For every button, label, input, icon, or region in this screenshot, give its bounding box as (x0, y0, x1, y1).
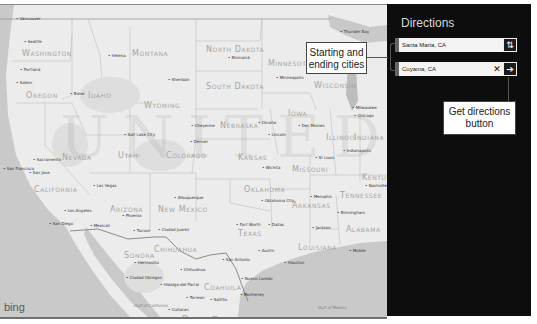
city-label: • Denver (190, 139, 208, 144)
city-label: • Phoenix (122, 213, 142, 218)
state-label: Minnesota (268, 59, 311, 68)
callout-cities: Starting and ending cities (306, 42, 367, 74)
city-label: • San Diego (49, 221, 73, 226)
callout-cities-line1: Starting and (307, 47, 366, 59)
city-label: • Seattle (24, 39, 42, 44)
city-label: • Mobile (349, 248, 366, 253)
city-label: • Sacramento (33, 157, 61, 162)
city-label: • Indianapolis (343, 148, 371, 153)
city-label: • Saltillo (210, 297, 227, 302)
water-label: Gulf of California (134, 303, 168, 308)
callout-get-directions: Get directions button (443, 101, 516, 135)
city-label: • Salem (16, 80, 32, 85)
city-label: • Houston (284, 260, 304, 265)
state-label: South Dakota (206, 82, 264, 91)
city-label: • Nashville (365, 183, 387, 188)
state-label: New Mexico (158, 205, 208, 214)
state-label: Alabama (346, 225, 381, 234)
city-label: • Oklahoma City (261, 198, 294, 203)
city-label: • San Francisco (3, 166, 34, 171)
state-label: Oklahoma (244, 185, 285, 194)
state-label: Montana (132, 49, 168, 58)
state-label: Colorado (166, 151, 206, 160)
callout-line-button (508, 77, 509, 101)
city-label: • Culiacan (168, 307, 189, 312)
city-label: • Ciudad Obregon (126, 275, 162, 280)
city-label: • Minneapolis (276, 75, 303, 80)
city-label: • Des Moines (298, 123, 325, 128)
state-label: Missouri (292, 165, 328, 174)
state-label: Illinois (326, 133, 356, 142)
city-label: • Torreon (186, 295, 204, 300)
city-label: • Memphis (310, 194, 332, 199)
end-marker-icon (395, 62, 399, 76)
state-label: Iowa (288, 109, 307, 118)
state-label: Indiana (354, 133, 384, 142)
city-label: • Hermosillo (134, 260, 159, 265)
panel-title: Directions (401, 16, 454, 30)
city-label: • Albuquerque (174, 195, 203, 200)
state-label: Nebraska (220, 121, 258, 130)
state-label: Wyoming (144, 101, 180, 110)
directions-panel: Directions Santa Maria, CA ⇅ Cuyama, CA … (387, 4, 531, 316)
city-label: • Salt Lake City (124, 132, 155, 137)
city-label: • Dallas (268, 222, 284, 227)
city-label: • Helena (108, 53, 126, 58)
callout-line-cities (366, 57, 388, 58)
state-label: Washington (22, 49, 72, 58)
state-label: Arkansas (292, 201, 331, 210)
state-label: Wisconsin (314, 81, 356, 90)
city-label: • Portland (20, 67, 40, 72)
callout-cities-line2: ending cities (307, 59, 366, 71)
city-label: • St Louis (315, 155, 334, 160)
region-label: Sonora (124, 251, 155, 260)
city-label: • Chihuahua (180, 267, 205, 272)
city-label: • Boise (70, 91, 84, 96)
city-label: • Bismarck (228, 55, 250, 60)
city-label: • Vancouver (16, 16, 41, 21)
city-label: • Austin (258, 248, 274, 253)
clear-icon[interactable]: ✕ (491, 64, 503, 74)
region-label: Chihuahua (154, 245, 197, 254)
state-label: Nevada (62, 153, 92, 162)
city-label: • Omaha (258, 120, 276, 125)
state-label: North Dakota (206, 45, 264, 54)
city-label: • Fort Worth (236, 222, 261, 227)
start-location-field[interactable]: Santa Maria, CA ⇅ (395, 38, 517, 52)
city-label: • Las Vegas (93, 183, 117, 188)
city-label: • Jackson (312, 225, 331, 230)
region-label: Coahuila (204, 283, 241, 292)
state-label: California (34, 185, 78, 194)
state-label: Tennessee (340, 191, 382, 200)
city-label: • Chicago (354, 113, 374, 118)
state-label: Texas (238, 229, 262, 238)
state-label: Utah (118, 151, 138, 160)
city-label: • Mexicali (90, 223, 110, 228)
city-label: • Nuevo Laredo (241, 276, 272, 281)
end-location-value[interactable]: Cuyama, CA (402, 66, 491, 72)
state-label: Kansas (238, 153, 267, 162)
end-location-field[interactable]: Cuyama, CA ✕ ➔ (395, 62, 517, 76)
callout-button-line1: Get directions (444, 106, 515, 118)
region-label: Zacatecas (212, 316, 254, 319)
city-label: • Birmingham (337, 210, 365, 215)
state-label: Idaho (88, 91, 111, 100)
swap-icon[interactable]: ⇅ (503, 38, 517, 52)
start-location-value[interactable]: Santa Maria, CA (402, 42, 503, 48)
start-marker-icon (395, 38, 399, 52)
city-label: • Sheridan (168, 77, 189, 82)
city-label: • Tucson (133, 228, 150, 233)
get-directions-button[interactable]: ➔ (503, 62, 517, 76)
state-label: Oregon (26, 91, 58, 100)
state-label: Louisiana (298, 243, 337, 252)
city-label: • Wichita (262, 165, 280, 170)
city-label: • Ciudad Juarez (158, 227, 189, 232)
city-label: • Los Angeles (64, 208, 92, 213)
state-label: Kentucky (362, 173, 387, 182)
city-label: • Milwaukee (352, 105, 377, 110)
city-label: • Monterrey (240, 292, 264, 297)
bing-logo: bing (4, 301, 25, 313)
city-label: • San Antonio (222, 257, 250, 262)
city-label: • Cheyenne (191, 123, 215, 128)
callout-button-line2: button (444, 118, 515, 130)
